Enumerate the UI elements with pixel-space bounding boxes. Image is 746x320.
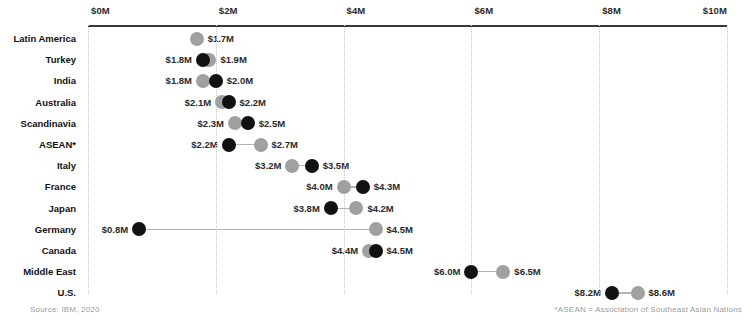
- row-label-germany: Germany: [0, 219, 76, 240]
- data-point-dark[interactable]: [305, 159, 319, 173]
- row-label-asean: ASEAN*: [0, 134, 76, 155]
- data-label: $4.5M: [387, 240, 413, 261]
- data-point-dark[interactable]: [464, 265, 478, 279]
- row-label-middle-east: Middle East: [0, 261, 76, 282]
- data-point-dark[interactable]: [196, 53, 210, 67]
- data-label: $3.2M: [255, 155, 281, 176]
- data-point-light[interactable]: [254, 138, 268, 152]
- row-label-japan: Japan: [0, 198, 76, 219]
- data-label: $8.6M: [649, 282, 675, 303]
- chart-row: Canada$4.4M$4.5M: [0, 240, 746, 261]
- data-point-light[interactable]: [196, 74, 210, 88]
- chart-row: U.S.$8.2M$8.6M: [0, 282, 746, 303]
- data-label: $2.2M: [240, 92, 266, 113]
- data-label: $3.5M: [323, 155, 349, 176]
- gridline-5: [727, 25, 728, 294]
- row-label-france: France: [0, 176, 76, 197]
- row-label-australia: Australia: [0, 92, 76, 113]
- chart-row: France$4.0M$4.3M: [0, 176, 746, 197]
- asean-footnote: *ASEAN = Association of Southeast Asian …: [554, 305, 742, 314]
- data-point-dark[interactable]: [222, 95, 236, 109]
- chart-row: Latin America$1.7M: [0, 28, 746, 49]
- source-note: Source: IBM, 2020: [30, 305, 100, 314]
- data-label: $4.0M: [306, 176, 332, 197]
- connector-line: [139, 229, 375, 230]
- x-axis-tick-labels: $0M$2M$4M$6M$8M$10M: [0, 0, 746, 20]
- x-axis-tick-3: $6M: [474, 5, 493, 16]
- row-label-latin-america: Latin America: [0, 28, 76, 49]
- x-axis-tick-4: $8M: [602, 5, 621, 16]
- data-point-dark[interactable]: [369, 244, 383, 258]
- gridline-4: [599, 25, 600, 294]
- data-label: $6.5M: [514, 261, 540, 282]
- dumbbell-chart: $0M$2M$4M$6M$8M$10M Latin America$1.7MTu…: [0, 0, 746, 320]
- chart-row: Italy$3.2M$3.5M: [0, 155, 746, 176]
- data-point-light[interactable]: [349, 201, 363, 215]
- data-point-light[interactable]: [369, 222, 383, 236]
- data-label: $2.0M: [227, 70, 253, 91]
- data-point-dark[interactable]: [324, 201, 338, 215]
- gridline-1: [216, 25, 217, 294]
- row-label-turkey: Turkey: [0, 49, 76, 70]
- data-label: $1.9M: [220, 49, 246, 70]
- gridline-2: [344, 25, 345, 294]
- data-point-light[interactable]: [631, 286, 645, 300]
- row-label-canada: Canada: [0, 240, 76, 261]
- data-point-light[interactable]: [190, 32, 204, 46]
- row-label-india: India: [0, 70, 76, 91]
- data-label: $4.4M: [332, 240, 358, 261]
- chart-row: Middle East$6.0M$6.5M: [0, 261, 746, 282]
- data-point-light[interactable]: [285, 159, 299, 173]
- data-point-light[interactable]: [496, 265, 510, 279]
- chart-row: Germany$0.8M$4.5M: [0, 219, 746, 240]
- row-label-u-s: U.S.: [0, 282, 76, 303]
- data-label: $2.3M: [198, 113, 224, 134]
- data-point-dark[interactable]: [356, 180, 370, 194]
- data-label: $1.7M: [208, 28, 234, 49]
- chart-row: Turkey$1.8M$1.9M: [0, 49, 746, 70]
- chart-row: ASEAN*$2.2M$2.7M: [0, 134, 746, 155]
- chart-row: Australia$2.1M$2.2M: [0, 92, 746, 113]
- data-label: $2.2M: [191, 134, 217, 155]
- row-label-italy: Italy: [0, 155, 76, 176]
- data-label: $1.8M: [166, 70, 192, 91]
- data-point-dark[interactable]: [132, 222, 146, 236]
- data-label: $2.5M: [259, 113, 285, 134]
- data-point-dark[interactable]: [241, 116, 255, 130]
- data-point-dark[interactable]: [222, 138, 236, 152]
- data-label: $6.0M: [434, 261, 460, 282]
- x-axis-tick-0: $0M: [91, 5, 110, 16]
- gridline-0: [88, 25, 89, 294]
- data-label: $0.8M: [102, 219, 128, 240]
- x-axis-tick-5: $10M: [703, 5, 727, 16]
- data-point-dark[interactable]: [605, 286, 619, 300]
- data-label: $8.2M: [575, 282, 601, 303]
- data-label: $4.3M: [374, 176, 400, 197]
- data-point-light[interactable]: [337, 180, 351, 194]
- data-label: $2.7M: [272, 134, 298, 155]
- chart-row: Japan$3.8M$4.2M: [0, 198, 746, 219]
- x-axis-tick-1: $2M: [219, 5, 238, 16]
- row-label-scandinavia: Scandinavia: [0, 113, 76, 134]
- gridline-3: [471, 25, 472, 294]
- chart-row: India$1.8M$2.0M: [0, 70, 746, 91]
- data-label: $4.2M: [367, 198, 393, 219]
- data-point-dark[interactable]: [209, 74, 223, 88]
- data-label: $3.8M: [293, 198, 319, 219]
- data-label: $4.5M: [387, 219, 413, 240]
- data-label: $1.8M: [166, 49, 192, 70]
- data-point-light[interactable]: [228, 116, 242, 130]
- chart-row: Scandinavia$2.3M$2.5M: [0, 113, 746, 134]
- data-label: $2.1M: [185, 92, 211, 113]
- x-axis-rule: [88, 25, 727, 27]
- x-axis-tick-2: $4M: [347, 5, 366, 16]
